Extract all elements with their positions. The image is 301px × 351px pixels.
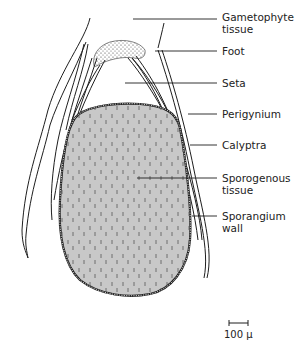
label-perigynium: Perigynium: [222, 108, 281, 120]
label-line: wall: [222, 222, 286, 234]
label-line: tissue: [222, 184, 291, 196]
label-calyptra: Calyptra: [222, 139, 266, 151]
label-gametophyte-tissue: Gametophyte tissue: [222, 11, 294, 35]
label-line: Gametophyte: [222, 11, 294, 23]
label-foot: Foot: [222, 45, 245, 57]
label-line: Seta: [222, 77, 246, 89]
sporangium: [60, 104, 191, 296]
label-sporogenous-tissue: Sporogenous tissue: [222, 172, 291, 196]
label-line: tissue: [222, 23, 294, 35]
label-line: Perigynium: [222, 108, 281, 120]
scale-bar-label: 100 µ: [224, 329, 253, 340]
label-seta: Seta: [222, 77, 246, 89]
foot-shape: [94, 40, 146, 66]
label-sporangium-wall: Sporangium wall: [222, 210, 286, 234]
label-line: Foot: [222, 45, 245, 57]
scale-bar: [229, 320, 248, 326]
label-line: Calyptra: [222, 139, 266, 151]
gametophyte-right-outline: [158, 23, 164, 48]
label-line: Sporangium: [222, 210, 286, 222]
label-line: Sporogenous: [222, 172, 291, 184]
